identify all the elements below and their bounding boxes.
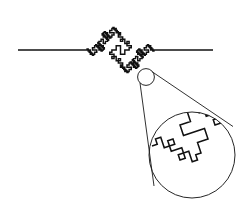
fractal-diagram-canvas (0, 0, 248, 202)
main-fractal-curve (86, 27, 155, 72)
detail-view-contents (152, 102, 236, 162)
leader-line-upper (153, 72, 234, 127)
magnified-fractal-curve (152, 102, 236, 162)
region-of-interest-circle (138, 69, 155, 86)
magnified-detail-circle (149, 112, 235, 198)
figure-root (0, 0, 248, 202)
